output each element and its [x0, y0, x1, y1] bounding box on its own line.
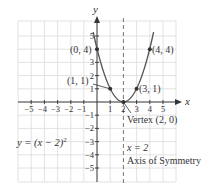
- x-tick-label: −4: [38, 104, 48, 114]
- x-tick-label: −2: [64, 104, 73, 114]
- equation-main: y = (x − 2): [16, 137, 64, 149]
- y-axis-label: y: [92, 3, 98, 15]
- y-tick-label: −3: [85, 137, 94, 147]
- label-4-4: (4, 4): [152, 44, 174, 56]
- label-0-4: (0, 4): [70, 44, 92, 56]
- x-tick-label: 5: [161, 104, 165, 114]
- x-tick-label: −5: [24, 104, 33, 114]
- leader-1-1: [93, 84, 109, 89]
- axis-of-symmetry-label: Axis of Symmetry: [127, 155, 201, 166]
- vertex-label: Vertex (2, 0): [127, 114, 177, 126]
- x-tick-label: 2: [121, 104, 125, 114]
- x-axis-label: x: [184, 95, 190, 107]
- parabola-graph: −5 −4 −3 −2 −1 1 2 3 4 5 5 3 2 1 −1 −2 −…: [0, 0, 222, 193]
- axis-equation-label: x = 2: [126, 142, 148, 153]
- x-tick-label: 1: [108, 104, 112, 114]
- x-tick-labels: −5 −4 −3 −2 −1 1 2 3 4 5: [24, 104, 165, 114]
- point-0-4: [95, 47, 99, 51]
- x-tick-label: 4: [148, 104, 153, 114]
- y-tick-label: −1: [85, 110, 94, 120]
- x-tick-label: 3: [134, 104, 138, 114]
- label-1-1: (1, 1): [67, 75, 89, 87]
- y-tick-label: 2: [90, 71, 94, 81]
- equation-exponent: 2: [63, 136, 67, 144]
- y-tick-label: 1: [90, 84, 94, 94]
- y-tick-label: −5: [85, 163, 94, 173]
- y-tick-label: −2: [85, 123, 94, 133]
- label-3-1: (3, 1): [139, 83, 161, 95]
- x-axis-arrow-icon: [175, 99, 182, 105]
- y-tick-label: −4: [85, 150, 95, 160]
- y-tick-label: 3: [90, 57, 94, 67]
- point-3-1: [135, 87, 139, 91]
- y-axis-arrow-icon: [94, 16, 100, 23]
- equation-label: y = (x − 2)2: [16, 136, 67, 149]
- x-tick-label: −3: [51, 104, 60, 114]
- point-vertex: [121, 100, 125, 104]
